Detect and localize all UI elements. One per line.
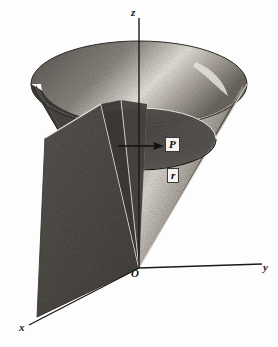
cone-diagram-svg (0, 0, 278, 347)
x-axis-label: x (19, 322, 25, 333)
y-axis-label: y (263, 262, 268, 273)
origin-label: O (131, 268, 139, 279)
figure-caption (0, 339, 278, 347)
figure-container: z y x O P r (0, 0, 278, 347)
radius-label: r (167, 168, 179, 183)
point-p-label: P (165, 137, 180, 152)
z-axis-label: z (131, 7, 135, 18)
